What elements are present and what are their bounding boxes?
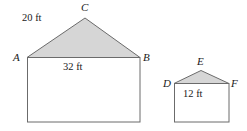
vertex-label-b: B — [143, 52, 150, 63]
small-house-roof-triangle — [174, 71, 229, 84]
dimension-label-large-base: 32 ft — [63, 62, 83, 73]
large-house-base-rectangle — [28, 58, 141, 123]
dimension-label-small-base: 12 ft — [183, 89, 203, 100]
vertex-label-f: F — [231, 78, 238, 89]
large-house-roof-triangle — [27, 18, 140, 58]
vertex-label-a: A — [13, 52, 20, 63]
geometry-figure-canvas: A B C 20 ft 32 ft D E F 12 ft — [0, 0, 247, 131]
large-house-group — [27, 18, 140, 122]
vertex-label-c: C — [81, 2, 88, 13]
vertex-label-d: D — [163, 78, 171, 89]
dimension-label-large-slant: 20 ft — [22, 13, 42, 24]
vertex-label-e: E — [197, 56, 204, 67]
